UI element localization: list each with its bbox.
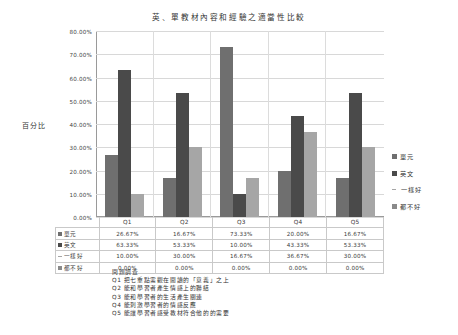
bar: [118, 70, 131, 217]
footnote-line: Q1 把七重點需觀在閱讀的「意義」之上: [112, 276, 230, 284]
y-axis-tick-label: 50.00%: [69, 99, 92, 105]
table-cell: 63.33%: [99, 239, 156, 250]
y-axis-tick-label: 20.00%: [69, 169, 92, 175]
bar: [291, 116, 304, 217]
footnote-heading: 問題調查: [112, 268, 230, 276]
bar: [163, 178, 176, 217]
chart-page: 英、單教材內容和經驗之適當性比較 百分比 0.00%10.00%20.00%30…: [0, 0, 458, 335]
series-name: 單元: [64, 231, 77, 237]
table-cell: 36.67%: [270, 251, 327, 262]
table-cell: 73.33%: [213, 228, 270, 239]
table-cell: 30.00%: [327, 251, 384, 262]
table-header-row: Q1Q2Q3Q4Q5: [56, 217, 384, 228]
series-name: 英文: [64, 242, 77, 248]
table-cell: 53.33%: [156, 239, 213, 250]
bar: [336, 178, 349, 217]
table-column-header: Q5: [327, 217, 384, 228]
bar: [105, 155, 118, 217]
bar-group: [269, 31, 327, 217]
table-row: 英文63.33%53.33%10.00%43.33%53.33%: [56, 239, 384, 250]
table-cell: 30.00%: [156, 251, 213, 262]
table-cell: 10.00%: [99, 251, 156, 262]
bar: [278, 171, 291, 218]
y-axis-tick-label: 70.00%: [69, 52, 92, 58]
y-axis-tick-label: 80.00%: [69, 29, 92, 35]
bar: [304, 132, 317, 217]
chart-legend: 單元英文一樣好都不好: [392, 152, 422, 211]
bar-group: [326, 31, 384, 217]
table-cell: 16.67%: [213, 251, 270, 262]
footnote-line: Q5 能讓學習者感受教材符合他的的需要: [112, 309, 230, 317]
table-cell: 10.00%: [213, 239, 270, 250]
legend-label: 一樣好: [401, 185, 422, 194]
table-cell: 53.33%: [327, 239, 384, 250]
table-row-header: 都不好: [56, 262, 100, 273]
series-marker-icon: [58, 256, 62, 257]
y-axis-tick-label: 40.00%: [69, 122, 92, 128]
table-cell: 0.00%: [270, 262, 327, 273]
footnote: 問題調查 Q1 把七重點需觀在閱讀的「意義」之上Q2 能和學習者產生情感上的聯結…: [112, 268, 230, 317]
bar: [220, 47, 233, 217]
bar-group: [96, 31, 154, 217]
table-row-header: 單元: [56, 228, 100, 239]
table-row: 一樣好10.00%30.00%16.67%36.67%30.00%: [56, 251, 384, 262]
legend-item[interactable]: 單元: [392, 152, 422, 161]
table-row: 單元26.67%16.67%73.33%20.00%16.67%: [56, 228, 384, 239]
table-cell: 20.00%: [270, 228, 327, 239]
series-name: 一樣好: [64, 253, 84, 259]
legend-item[interactable]: 都不好: [392, 202, 422, 211]
bar: [362, 147, 375, 217]
footnote-line: Q4 能刺激學習者的情感反應: [112, 301, 230, 309]
footnote-line: Q2 能和學習者產生情感上的聯結: [112, 284, 230, 292]
legend-label: 英文: [400, 169, 414, 178]
y-axis-tick-label: 10.00%: [69, 192, 92, 198]
legend-label: 單元: [400, 152, 414, 161]
y-axis-tick-label: 30.00%: [69, 145, 92, 151]
table-row-header: 英文: [56, 239, 100, 250]
legend-swatch-icon: [392, 189, 396, 190]
table-column-header: Q4: [270, 217, 327, 228]
bar: [349, 93, 362, 217]
legend-item[interactable]: 一樣好: [392, 185, 422, 194]
chart-title: 英、單教材內容和經驗之適當性比較: [0, 11, 458, 22]
y-axis-title: 百分比: [22, 120, 47, 130]
legend-swatch-icon: [392, 154, 397, 159]
plot-area: 0.00%10.00%20.00%30.00%40.00%50.00%60.00…: [96, 31, 384, 217]
legend-swatch-icon: [392, 171, 397, 176]
bar: [131, 194, 144, 217]
table-cell: 26.67%: [99, 228, 156, 239]
table-cell: 16.67%: [156, 228, 213, 239]
legend-swatch-icon: [392, 204, 397, 209]
legend-item[interactable]: 英文: [392, 169, 422, 178]
table-row-header: 一樣好: [56, 251, 100, 262]
table-cell: 43.33%: [270, 239, 327, 250]
table-column-header: Q2: [156, 217, 213, 228]
bar: [246, 178, 259, 217]
bar-groups: [96, 31, 384, 217]
series-name: 都不好: [64, 265, 84, 271]
table-cell: 16.67%: [327, 228, 384, 239]
table-corner-cell: [56, 217, 100, 228]
bar: [176, 93, 189, 217]
bar: [233, 194, 246, 217]
bar-group: [154, 31, 212, 217]
y-axis-tick-label: 60.00%: [69, 76, 92, 82]
data-table: Q1Q2Q3Q4Q5單元26.67%16.67%73.33%20.00%16.6…: [55, 217, 384, 274]
series-marker-icon: [58, 232, 62, 236]
table-column-header: Q1: [99, 217, 156, 228]
bar: [189, 147, 202, 217]
series-marker-icon: [58, 243, 62, 247]
table-column-header: Q3: [213, 217, 270, 228]
series-marker-icon: [58, 266, 62, 270]
footnote-line: Q3 能和學習者的生活產生關連: [112, 293, 230, 301]
table-cell: 0.00%: [327, 262, 384, 273]
bar-group: [211, 31, 269, 217]
legend-label: 都不好: [400, 202, 421, 211]
